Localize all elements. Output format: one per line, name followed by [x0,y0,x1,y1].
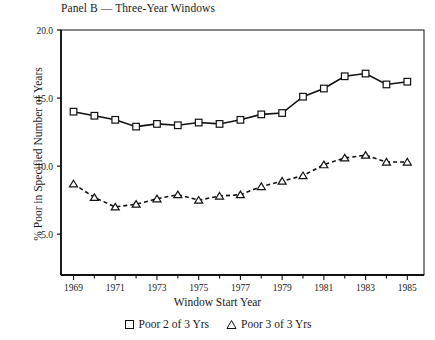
chart-legend: Poor 2 of 3 Yrs Poor 3 of 3 Yrs [0,318,435,330]
svg-text:1975: 1975 [189,283,208,293]
chart-plot-area: 5.010.015.020.0 196919711973197519771979… [0,0,435,340]
svg-text:10.0: 10.0 [36,162,53,172]
y-axis-tick-labels: 5.010.015.020.0 [36,26,53,240]
svg-text:15.0: 15.0 [36,94,53,104]
svg-text:20.0: 20.0 [36,26,53,36]
triangle-marker-icon [226,319,237,330]
svg-text:1973: 1973 [147,283,166,293]
axis-ticks [57,30,407,280]
svg-text:1985: 1985 [398,283,417,293]
legend-item-poor-2-of-3: Poor 2 of 3 Yrs [124,318,210,330]
svg-text:5.0: 5.0 [41,230,53,240]
legend-label-poor-2-of-3: Poor 2 of 3 Yrs [139,318,210,330]
x-axis-label: Window Start Year [0,296,435,308]
svg-text:1983: 1983 [356,283,375,293]
axes [61,30,424,275]
svg-text:1977: 1977 [231,283,250,293]
legend-item-poor-3-of-3: Poor 3 of 3 Yrs [226,318,312,330]
x-axis-tick-labels: 196919711973197519771979198119831985 [64,283,417,293]
square-marker-icon [124,319,135,330]
svg-text:1971: 1971 [106,283,125,293]
svg-text:1969: 1969 [64,283,83,293]
svg-text:1981: 1981 [314,283,333,293]
legend-label-poor-3-of-3: Poor 3 of 3 Yrs [241,318,312,330]
svg-text:1979: 1979 [273,283,292,293]
data-series [70,70,412,210]
